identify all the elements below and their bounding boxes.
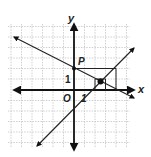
point-p bbox=[72, 67, 76, 71]
y-unit-label: 1 bbox=[65, 75, 71, 85]
intersection-point bbox=[98, 79, 104, 85]
x-unit-label: 1 bbox=[81, 94, 87, 104]
x-axis-label: x bbox=[138, 84, 144, 95]
y-axis-label: y bbox=[68, 13, 74, 24]
grid-lines bbox=[8, 24, 130, 147]
coordinate-plane-diagram: y x P 1 O 1 bbox=[0, 0, 151, 157]
origin-label: O bbox=[63, 94, 71, 104]
graph-svg bbox=[0, 0, 151, 157]
point-p-label: P bbox=[78, 57, 85, 67]
